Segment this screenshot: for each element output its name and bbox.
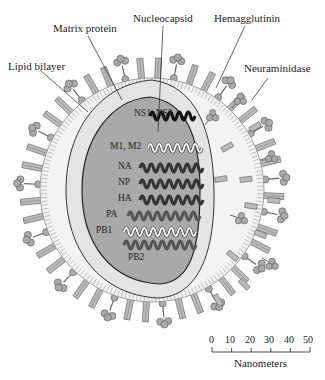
segment-label-na: NA bbox=[118, 161, 132, 171]
segment-label-pa: PA bbox=[106, 209, 117, 219]
scale-tick-40: 40 bbox=[284, 334, 294, 345]
segment-label-pb2: PB2 bbox=[128, 252, 144, 262]
label-neuraminidase: Neuraminidase bbox=[244, 62, 311, 74]
scale-tick-30: 30 bbox=[264, 334, 274, 345]
scale-unit-label: Nanometers bbox=[234, 357, 287, 369]
scale-tick-10: 10 bbox=[225, 334, 235, 345]
virus-diagram: Lipid bilayer Matrix protein Nucleocapsi… bbox=[0, 0, 325, 380]
scale-tick-0: 0 bbox=[209, 334, 214, 345]
segment-label-ns: NS1, NS2 bbox=[134, 108, 173, 118]
label-matrix-protein: Matrix protein bbox=[53, 22, 117, 34]
scale-tick-20: 20 bbox=[245, 334, 255, 345]
segment-label-pb1: PB1 bbox=[96, 225, 112, 235]
label-hemagglutinin: Hemagglutinin bbox=[214, 12, 280, 24]
scale-tick-50: 50 bbox=[303, 334, 313, 345]
label-lipid-bilayer: Lipid bilayer bbox=[8, 60, 65, 72]
segment-label-m: M1, M2 bbox=[110, 141, 141, 151]
segment-label-np: NP bbox=[118, 177, 130, 187]
segment-label-ha: HA bbox=[118, 193, 132, 203]
scale-bar bbox=[212, 347, 310, 352]
influenza-virion bbox=[0, 0, 325, 380]
label-nucleocapsid: Nucleocapsid bbox=[133, 12, 193, 24]
